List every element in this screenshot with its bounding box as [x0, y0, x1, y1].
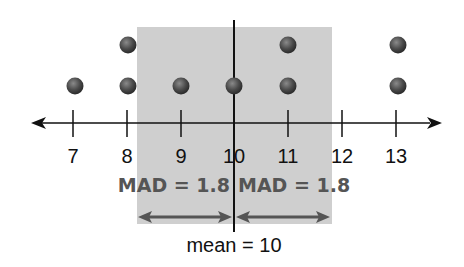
dot [280, 37, 297, 54]
dot [390, 78, 407, 95]
mean-label: mean = 10 [186, 234, 281, 256]
tick-label-10: 10 [223, 145, 245, 167]
tick-label-11: 11 [278, 145, 299, 167]
left-mad-label: MAD = 1.8 [118, 174, 230, 196]
dot [280, 78, 297, 95]
dot [120, 37, 137, 54]
dot [226, 78, 243, 95]
tick-label-7: 7 [67, 145, 78, 167]
dot [120, 78, 137, 95]
dot [390, 37, 407, 54]
tick-label-13: 13 [385, 145, 407, 167]
right-mad-label: MAD = 1.8 [238, 174, 350, 196]
tick-label-9: 9 [175, 145, 186, 167]
tick-labels: 7 8 9 10 11 12 13 [67, 145, 407, 167]
dot [67, 78, 84, 95]
dot [173, 78, 190, 95]
tick-label-12: 12 [331, 145, 353, 167]
dot-plot-diagram: 7 8 9 10 11 12 13 MAD = 1.8 MAD = 1.8 me… [0, 0, 464, 267]
tick-label-8: 8 [121, 145, 132, 167]
